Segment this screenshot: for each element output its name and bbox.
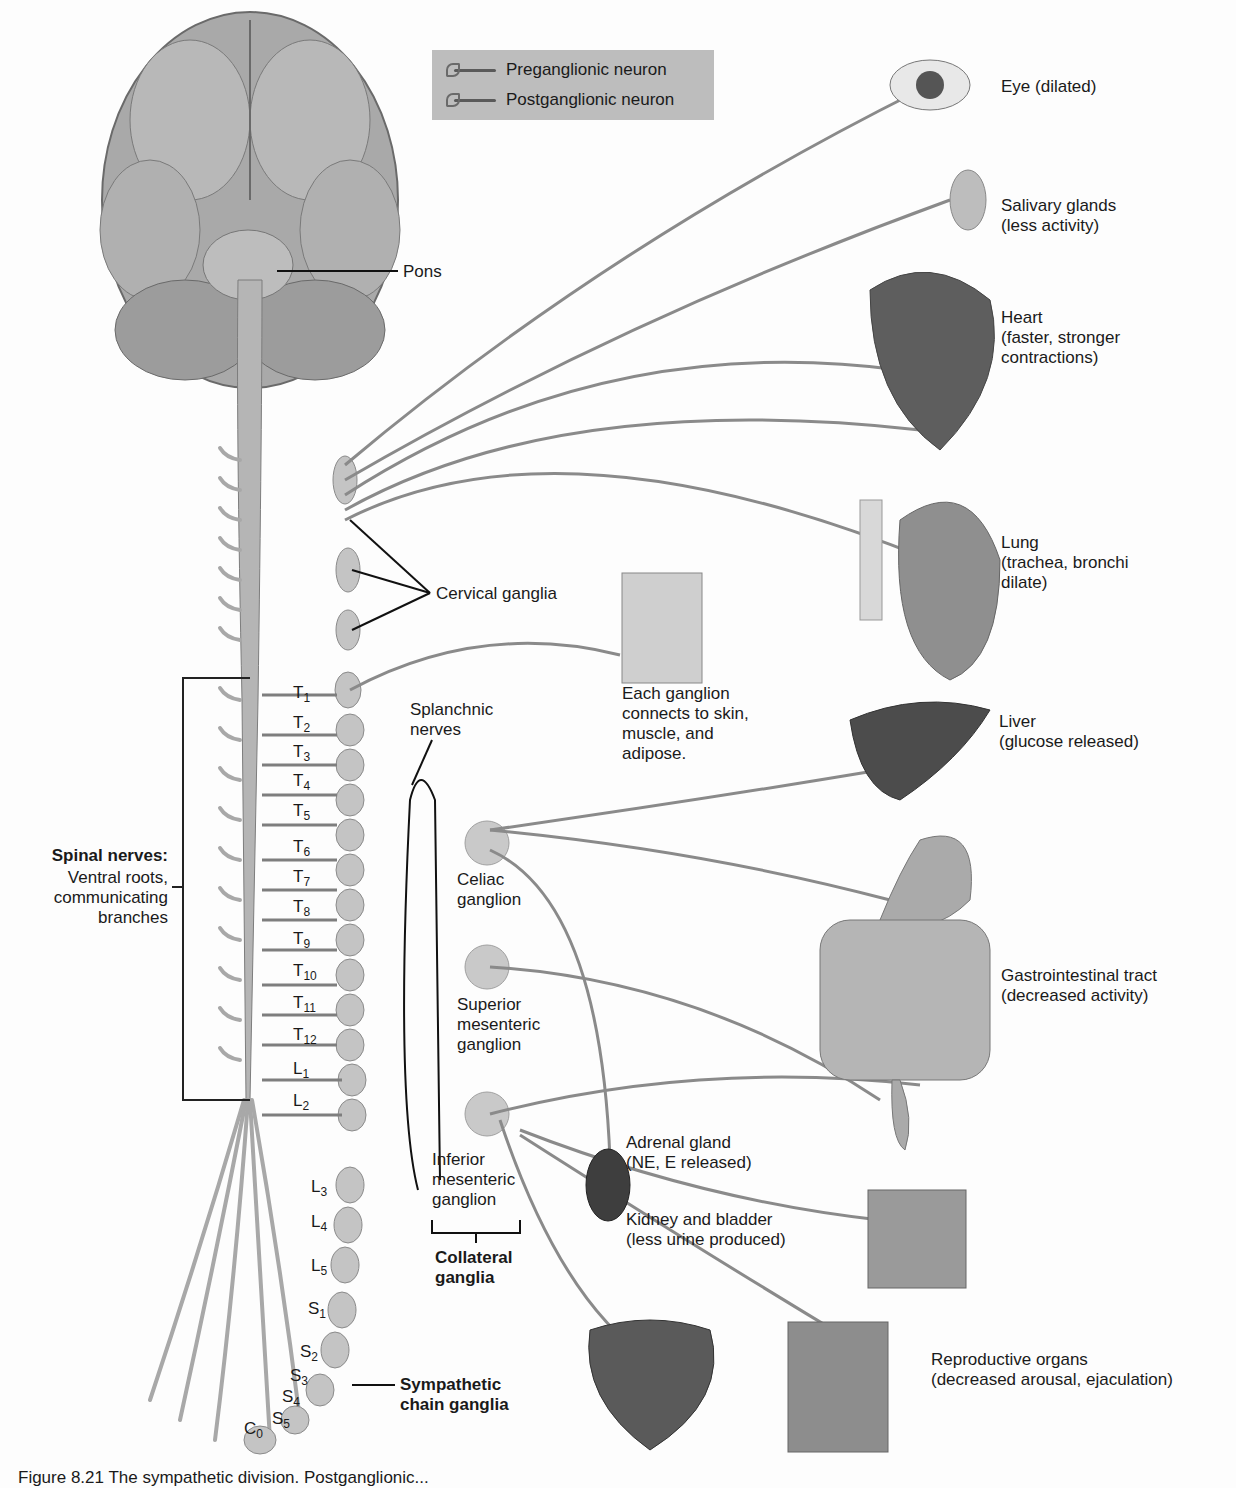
organ-label-liver: Liver (glucose released) xyxy=(999,712,1139,752)
skin-connection-note: Each ganglion connects to skin, muscle, … xyxy=(622,684,749,764)
segment-label-T12: T12 xyxy=(293,1026,317,1049)
segment-label-T7: T7 xyxy=(293,868,310,891)
segment-label-C0: C0 xyxy=(244,1420,263,1443)
segment-label-T2: T2 xyxy=(293,714,310,737)
segment-label-L3: L3 xyxy=(311,1178,327,1201)
inferior-mesenteric-ganglion-label: Inferior mesenteric ganglion xyxy=(432,1150,515,1210)
collateral-ganglia xyxy=(465,821,509,1136)
cervical-ganglia-label: Cervical ganglia xyxy=(436,584,557,604)
organ-label-adrenal-gland: Adrenal gland (NE, E released) xyxy=(626,1133,752,1173)
segment-label-T1: T1 xyxy=(293,684,310,707)
organ-label-reproductive: Reproductive organs (decreased arousal, … xyxy=(931,1350,1173,1390)
segment-label-T8: T8 xyxy=(293,898,310,921)
pons-label: Pons xyxy=(403,262,442,282)
organ-label-eye: Eye (dilated) xyxy=(1001,77,1096,97)
segment-label-T9: T9 xyxy=(293,930,310,953)
segment-label-T6: T6 xyxy=(293,838,310,861)
segment-label-T4: T4 xyxy=(293,772,310,795)
legend: Preganglionic neuron Postganglionic neur… xyxy=(432,50,714,120)
sympathetic-chain-label: Sympathetic chain ganglia xyxy=(400,1375,509,1415)
segment-label-L5: L5 xyxy=(311,1257,327,1280)
segment-label-L1: L1 xyxy=(293,1060,309,1083)
segment-label-L2: L2 xyxy=(293,1092,309,1115)
legend-item-preganglionic: Preganglionic neuron xyxy=(446,58,667,82)
segment-label-T10: T10 xyxy=(293,962,317,985)
segment-label-S2: S2 xyxy=(300,1343,318,1366)
segment-label-S4: S4 xyxy=(282,1388,300,1411)
spinal-nerves-subtitle: Ventral roots, communicating branches xyxy=(0,868,168,928)
segment-label-T5: T5 xyxy=(293,802,310,825)
segment-label-T11: T11 xyxy=(293,994,316,1017)
legend-label: Preganglionic neuron xyxy=(506,60,667,80)
legend-label: Postganglionic neuron xyxy=(506,90,674,110)
superior-mesenteric-ganglion-label: Superior mesenteric ganglion xyxy=(457,995,540,1055)
organ-label-heart: Heart (faster, stronger contractions) xyxy=(1001,308,1120,368)
spinal-nerves-title: Spinal nerves: xyxy=(0,846,168,866)
organ-label-gi-tract: Gastrointestinal tract (decreased activi… xyxy=(1001,966,1157,1006)
organ-label-salivary-glands: Salivary glands (less activity) xyxy=(1001,196,1116,236)
segment-label-T3: T3 xyxy=(293,743,310,766)
neuron-icon xyxy=(446,93,498,107)
segment-label-L4: L4 xyxy=(311,1213,327,1236)
neuron-icon xyxy=(446,63,498,77)
collateral-ganglia-label: Collateral ganglia xyxy=(435,1248,512,1288)
organ-label-kidney-bladder: Kidney and bladder (less urine produced) xyxy=(626,1210,786,1250)
segment-label-S5: S5 xyxy=(272,1410,290,1433)
figure-caption: Figure 8.21 The sympathetic division. Po… xyxy=(18,1468,429,1488)
organ-label-lung: Lung (trachea, bronchi dilate) xyxy=(1001,533,1129,593)
segment-label-S1: S1 xyxy=(308,1300,326,1323)
splanchnic-nerves-label: Splanchnic nerves xyxy=(410,700,493,740)
celiac-ganglion-label: Celiac ganglion xyxy=(457,870,521,910)
legend-item-postganglionic: Postganglionic neuron xyxy=(446,88,674,112)
